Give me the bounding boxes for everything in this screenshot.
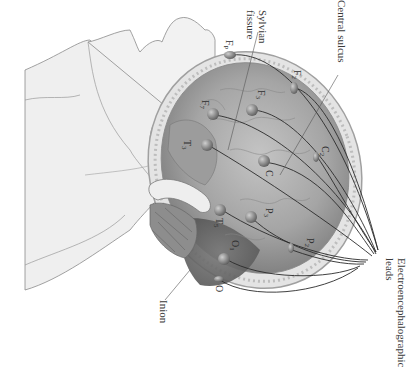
electrode-o1 <box>218 253 230 265</box>
electrode-label-fp: FP <box>222 40 235 49</box>
electrode-p2 <box>288 243 294 253</box>
electrode-fp <box>224 51 236 59</box>
electrode-label-p3: P3 <box>262 208 275 217</box>
eeg-head-illustration <box>0 0 413 377</box>
electrode-p3 <box>245 211 257 223</box>
electrode-label-c: C <box>264 170 275 177</box>
electrode-label-f7: F7 <box>198 100 211 109</box>
electrode-label-o1: O1 <box>228 240 241 251</box>
label-eeg-leads: Electroencephalographic leads <box>384 258 408 367</box>
electrode-t5 <box>214 204 226 216</box>
electrode-f2 <box>290 82 298 94</box>
electrode-f7 <box>207 108 219 120</box>
label-sylvian-line1: Sylvian <box>257 10 269 44</box>
label-inion: Inion <box>158 300 170 323</box>
label-eeg-line2: leads <box>384 258 396 281</box>
label-eeg-line1: Electroencephalographic <box>396 258 408 367</box>
electrode-label-p2: P2 <box>303 238 316 247</box>
label-sylvian-line2: fissure <box>245 10 257 39</box>
electrode-c <box>258 155 270 167</box>
electrode-f3 <box>246 104 258 116</box>
label-central-sulcus: Central sulcus <box>336 0 348 63</box>
electrode-label-c2: C2 <box>318 146 331 156</box>
electrode-t3 <box>201 139 213 151</box>
label-sylvian-fissure: Sylvian fissure <box>245 10 269 44</box>
electrode-label-f2: F2 <box>290 70 303 79</box>
electrode-label-o: O <box>214 285 225 292</box>
electrode-label-t3: T3 <box>180 140 193 150</box>
electrode-label-t5: T5 <box>212 218 225 228</box>
electrode-label-f3: F3 <box>254 90 267 99</box>
electrode-o <box>214 276 224 282</box>
